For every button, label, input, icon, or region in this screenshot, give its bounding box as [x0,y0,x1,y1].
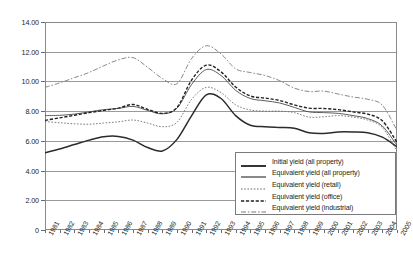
legend-label: Equivalent yield (retail) [272,180,341,190]
x-tick-label: 1997 [282,220,296,237]
x-tick-label: 2003 [370,220,384,237]
legend-swatch-icon [240,180,267,190]
legend-swatch-icon [240,203,267,213]
x-tick-label: 1987 [135,220,149,237]
x-tick-label: 1998 [296,220,310,237]
x-tick-label: 2002 [355,220,369,237]
legend-label: Equivalent yield (office) [272,192,342,202]
x-tick-label: 1982 [62,220,76,237]
x-tick-label: 2001 [340,220,354,237]
legend-label: Initial yield (all property) [272,157,344,167]
legend-item[interactable]: Equivalent yield (industrial) [240,202,391,214]
chart-legend: Initial yield (all property)Equivalent y… [235,152,396,215]
x-tick-label: 1999 [311,220,325,237]
legend-swatch-icon [240,157,267,167]
x-tick-mark [280,230,281,233]
legend-item[interactable]: Initial yield (all property) [240,156,391,168]
x-tick-mark [60,230,61,233]
x-tick-label: 1991 [194,220,208,237]
x-tick-mark [324,230,325,233]
x-tick-label: 1985 [106,220,120,237]
x-tick-label: 1995 [252,220,266,237]
x-tick-mark [104,230,105,233]
x-tick-mark [148,230,149,233]
x-tick-label: 1994 [238,220,252,237]
x-tick-label: 1983 [76,220,90,237]
x-tick-label: 1993 [223,220,237,237]
x-tick-label: 1988 [150,220,164,237]
legend-item[interactable]: Equivalent yield (all property) [240,168,391,180]
legend-label: Equivalent yield (industrial) [272,203,353,213]
x-tick-label: 1996 [267,220,281,237]
x-axis: 1981198219831984198519861987198819891990… [0,0,413,265]
legend-swatch-icon [240,168,267,178]
x-tick-label: 2000 [326,220,340,237]
x-tick-label: 1984 [91,220,105,237]
legend-item[interactable]: Equivalent yield (retail) [240,179,391,191]
x-tick-mark [368,230,369,233]
legend-label: Equivalent yield (all property) [272,168,360,178]
x-tick-mark [236,230,237,233]
legend-swatch-icon [240,192,267,202]
x-tick-label: 1989 [164,220,178,237]
x-tick-label: 2005 [399,220,413,237]
x-tick-mark [192,230,193,233]
x-tick-label: 1990 [179,220,193,237]
x-tick-label: 1992 [208,220,222,237]
line-chart: 02.004.006.008.0010.0012.0014.00 1981198… [0,0,413,265]
legend-item[interactable]: Equivalent yield (office) [240,191,391,203]
x-tick-label: 1986 [120,220,134,237]
x-tick-label: 2004 [384,220,398,237]
x-tick-label: 1981 [47,220,61,237]
